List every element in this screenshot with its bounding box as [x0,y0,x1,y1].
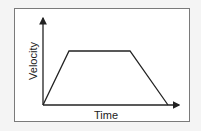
x-axis-label: Time [94,109,118,121]
velocity-profile-line [43,51,168,105]
y-axis-label: Velocity [27,42,39,80]
velocity-time-chart: Time Velocity [0,0,201,131]
